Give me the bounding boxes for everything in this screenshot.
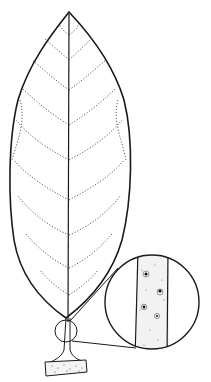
leaf-illustration bbox=[0, 0, 211, 382]
magnified-stem bbox=[135, 250, 169, 360]
leaf-blade bbox=[10, 12, 131, 318]
twig bbox=[45, 360, 87, 376]
petiole bbox=[48, 318, 82, 363]
midrib bbox=[68, 14, 69, 322]
